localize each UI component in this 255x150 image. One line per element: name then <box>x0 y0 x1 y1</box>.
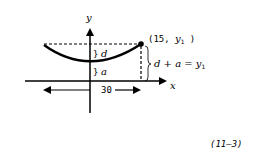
a-brace-icon: } <box>93 67 98 77</box>
parabola-diagram: y x (15, y1 ) } d } a d + a = y1 30 (11–… <box>0 0 255 150</box>
a-segment-label: a <box>101 66 107 77</box>
figure-reference: (11–3) <box>210 139 243 149</box>
endpoint-marker <box>138 41 144 47</box>
x-axis-label: x <box>170 80 176 91</box>
d-segment-label: d <box>101 48 107 59</box>
point-label: (15, y1 ) <box>148 33 195 45</box>
span-label: 30 <box>101 85 112 95</box>
equation-label: d + a = y1 <box>154 58 206 70</box>
y-axis-label: y <box>85 12 92 23</box>
d-brace-icon: } <box>93 49 98 59</box>
right-brace-icon <box>145 46 151 81</box>
